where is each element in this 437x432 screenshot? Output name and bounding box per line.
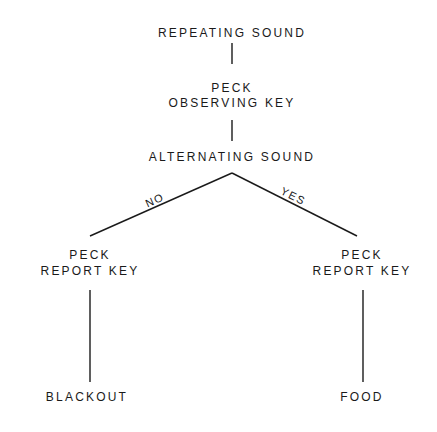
node-peck-observing-line2: OBSERVING KEY xyxy=(168,96,295,110)
node-blackout: BLACKOUT xyxy=(46,390,128,404)
connector-lines xyxy=(0,0,437,432)
node-alternating-sound: ALTERNATING SOUND xyxy=(149,150,315,164)
node-repeating-sound: REPEATING SOUND xyxy=(158,26,306,40)
diagram-canvas: REPEATING SOUND PECK OBSERVING KEY ALTER… xyxy=(0,0,437,432)
node-peck-report-no-line1: PECK xyxy=(69,248,110,262)
node-food: FOOD xyxy=(340,390,383,404)
node-peck-report-yes-line2: REPORT KEY xyxy=(313,264,412,278)
node-peck-report-no-line2: REPORT KEY xyxy=(41,264,140,278)
node-peck-observing-line1: PECK xyxy=(211,81,252,95)
node-peck-report-yes-line1: PECK xyxy=(341,248,382,262)
